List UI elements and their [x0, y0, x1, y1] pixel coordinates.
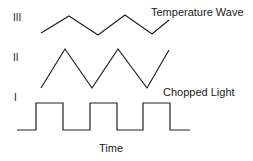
row-label-iii: III [13, 12, 21, 24]
chopped-light-square-wave [17, 103, 190, 130]
time-axis-label: Time [99, 142, 123, 154]
chopped-light-label: Chopped Light [163, 86, 235, 98]
temperature-wave-label: Temperature Wave [151, 6, 244, 18]
triangle-wave-line [41, 49, 169, 88]
waveform-diagram [0, 0, 253, 161]
row-label-i: I [14, 92, 17, 104]
row-label-ii: II [13, 52, 19, 64]
temperature-wave-line [41, 15, 169, 35]
